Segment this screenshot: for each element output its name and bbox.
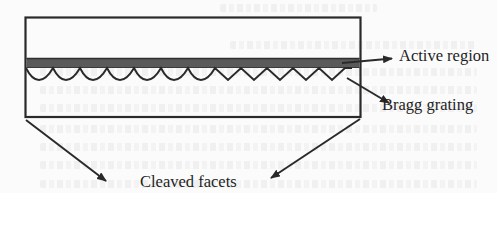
left-facet-arrow	[26, 120, 106, 181]
active-region-label: Active region	[399, 48, 489, 65]
bragg-grating	[26, 68, 352, 80]
right-facet-arrow	[271, 119, 360, 178]
bragg-grating-label: Bragg grating	[382, 97, 473, 114]
cleaved-facets-label: Cleaved facets	[140, 174, 237, 191]
active-region-layer	[27, 58, 360, 68]
